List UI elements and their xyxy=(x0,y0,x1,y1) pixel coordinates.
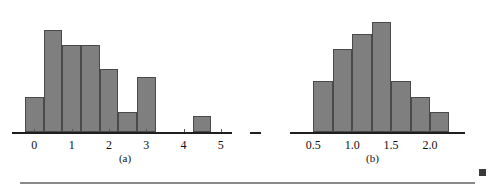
x-axis-tick xyxy=(313,129,314,132)
histogram-bar xyxy=(372,22,391,132)
x-axis-tick-label: 0.5 xyxy=(293,138,333,152)
x-axis-tick-label: 4 xyxy=(164,138,204,152)
histogram-bar xyxy=(411,97,430,132)
x-axis-tick xyxy=(184,129,185,132)
x-axis-tick-label: 1.0 xyxy=(332,138,372,152)
x-axis-tick xyxy=(221,129,222,132)
histogram-bar xyxy=(313,81,332,132)
page-corner-marker-icon xyxy=(478,168,487,177)
histogram-bar xyxy=(25,97,44,132)
x-axis-line xyxy=(12,132,232,134)
x-axis-tick-label: 3 xyxy=(126,138,166,152)
x-axis-tick xyxy=(430,129,431,132)
x-axis-tick-label: 0 xyxy=(14,138,54,152)
histogram-bar xyxy=(118,112,137,132)
x-axis-tick-label: 1 xyxy=(52,138,92,152)
x-axis-line xyxy=(290,132,465,134)
histogram-bar xyxy=(352,34,371,132)
histogram-bar xyxy=(430,112,449,132)
histogram-bar xyxy=(137,77,156,132)
footer-divider-rule xyxy=(20,182,475,184)
histogram-bar xyxy=(81,45,100,132)
x-axis-tick-label: 5 xyxy=(201,138,241,152)
panel-caption-a: (a) xyxy=(0,152,250,165)
histogram-panel-b: 0.51.01.52.0 (b) xyxy=(250,0,495,175)
x-axis-tick xyxy=(352,129,353,132)
x-axis-tick xyxy=(146,129,147,132)
plot-area-b: 0.51.01.52.0 xyxy=(250,0,495,135)
histogram-bar xyxy=(100,69,119,132)
histogram-bar xyxy=(44,30,63,132)
histogram-bar xyxy=(333,49,352,132)
panel-caption-b: (b) xyxy=(250,152,495,165)
x-axis-tick xyxy=(391,129,392,132)
x-axis-tick xyxy=(34,129,35,132)
x-axis-tick-label: 2.0 xyxy=(410,138,450,152)
x-axis-tick-label: 2 xyxy=(89,138,129,152)
histogram-bar xyxy=(391,81,410,132)
histogram-bar xyxy=(193,116,212,132)
histogram-panel-a: 012345 (a) xyxy=(0,0,250,175)
axis-stub xyxy=(250,132,261,134)
plot-area-a: 012345 xyxy=(0,0,250,135)
x-axis-tick-label: 1.5 xyxy=(371,138,411,152)
x-axis-tick xyxy=(72,129,73,132)
histogram-bar xyxy=(62,45,81,132)
x-axis-tick xyxy=(109,129,110,132)
figure-root: 012345 (a) 0.51.01.52.0 (b) xyxy=(0,0,495,192)
